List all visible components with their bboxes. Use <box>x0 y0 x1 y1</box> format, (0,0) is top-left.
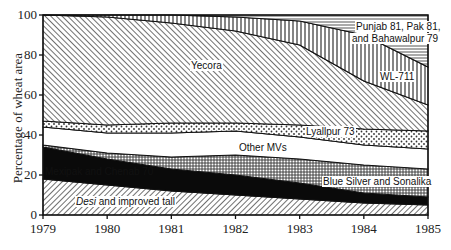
y-tick-label: 80 <box>24 47 37 62</box>
x-tick-label: 1983 <box>287 221 313 236</box>
x-tick-label: 1982 <box>223 221 249 236</box>
label-mexipak: Mexipak and Chenab 70 <box>45 166 154 177</box>
y-tick-label: 0 <box>31 207 38 222</box>
label-othermvs: Other MVs <box>239 142 287 153</box>
label-punjab-2: and Bahawalpur 79 <box>352 33 439 44</box>
label-bluesilver: Blue Silver and Sonalika <box>323 176 432 187</box>
y-tick-label: 100 <box>18 7 38 22</box>
x-tick-label: 1985 <box>415 221 441 236</box>
label-wl711: WL-711 <box>380 71 415 82</box>
label-lyallpur: Lyallpur 73 <box>306 126 355 137</box>
x-tick-label: 1980 <box>94 221 120 236</box>
y-axis-label: Percentage of wheat area <box>10 53 25 184</box>
label-punjab-1: Punjab 81, Pak 81, <box>356 21 441 32</box>
x-tick-label: 1984 <box>351 221 378 236</box>
x-tick-label: 1981 <box>158 221 184 236</box>
label-yecora: Yecora <box>191 60 222 71</box>
stacked-area-chart: 0204060801001979198019811982198319841985… <box>0 0 451 250</box>
label-desi: Desi and improved tall <box>76 196 175 207</box>
y-tick-label: 20 <box>24 167 37 182</box>
y-tick-label: 40 <box>24 127 37 142</box>
y-tick-label: 60 <box>24 87 37 102</box>
x-tick-label: 1979 <box>30 221 56 236</box>
